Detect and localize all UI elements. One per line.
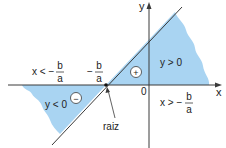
right-interval-den: a — [186, 104, 192, 115]
root-value-prefix: − — [87, 66, 93, 77]
left-interval-den: a — [57, 73, 63, 84]
right-interval-prefix: x > − — [160, 97, 182, 108]
root-pointer-label: raiz — [103, 121, 119, 132]
y-axis-arrow-icon — [147, 2, 152, 9]
sign-diagram: y x 0 y > 0 + y < 0 − x < − b a − b a x … — [0, 0, 226, 148]
minus-sign-text: − — [73, 94, 78, 104]
root-point — [104, 83, 108, 87]
positive-region-label: y > 0 — [160, 57, 182, 68]
root-value-den: a — [96, 73, 102, 84]
root-value-num: b — [96, 60, 102, 71]
right-interval-num: b — [186, 91, 192, 102]
y-axis-label: y — [139, 0, 145, 12]
left-interval-prefix: x < − — [32, 66, 54, 77]
root-pointer-line — [108, 90, 115, 118]
plus-sign-text: + — [133, 68, 138, 78]
positive-region — [106, 12, 209, 85]
negative-region-label: y < 0 — [45, 99, 67, 110]
left-interval-num: b — [57, 60, 63, 71]
origin-label: 0 — [141, 86, 147, 97]
x-axis-label: x — [216, 86, 222, 98]
